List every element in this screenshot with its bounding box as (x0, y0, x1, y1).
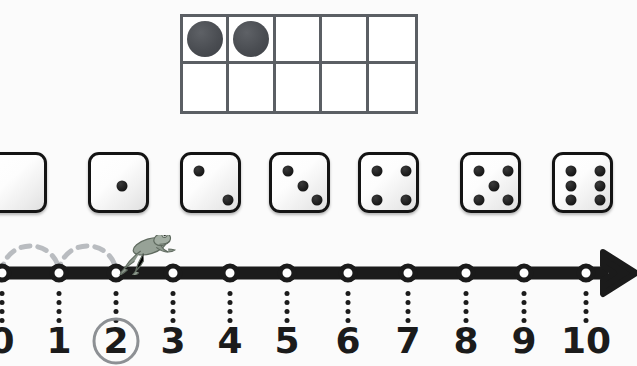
ten-frame[interactable] (180, 14, 418, 114)
die-pip (502, 166, 513, 177)
tick-leader-dots (285, 291, 290, 323)
axis-label-5[interactable]: 5 (274, 323, 299, 359)
die-pip (474, 166, 485, 177)
tick-leader-dots (584, 291, 589, 323)
tick-marker-4[interactable] (221, 264, 240, 283)
number-line[interactable]: 012345678910 (0, 228, 637, 366)
die-pip (566, 180, 577, 191)
tick-marker-7[interactable] (399, 264, 418, 283)
die-pip (297, 180, 308, 191)
counter-dot (187, 21, 223, 57)
die-face-0[interactable] (0, 152, 47, 213)
tick-marker-5[interactable] (278, 264, 297, 283)
die-pip (400, 194, 411, 205)
die-face-3[interactable] (269, 152, 330, 213)
die-face-5[interactable] (460, 152, 521, 213)
axis-label-4[interactable]: 4 (217, 323, 242, 359)
die-pip (594, 180, 605, 191)
die-pip (502, 194, 513, 205)
counter-dot (233, 21, 269, 57)
die-pip (488, 180, 499, 191)
tick-marker-8[interactable] (457, 264, 476, 283)
tick-leader-dots (228, 291, 233, 323)
axis-label-6[interactable]: 6 (335, 323, 360, 359)
tick-marker-6[interactable] (339, 264, 358, 283)
tick-marker-1[interactable] (50, 264, 69, 283)
axis-label-7[interactable]: 7 (395, 323, 420, 359)
axis-label-8[interactable]: 8 (453, 323, 478, 359)
die-pip (372, 194, 383, 205)
ten-frame-cell[interactable] (229, 64, 275, 111)
ten-frame-cell[interactable] (276, 64, 322, 111)
die-pip (594, 166, 605, 177)
die-pip (222, 194, 233, 205)
ten-frame-cell[interactable] (369, 64, 415, 111)
ten-frame-cell[interactable] (322, 64, 368, 111)
die-pip (594, 194, 605, 205)
tick-leader-dots (522, 291, 527, 323)
frog-marker[interactable] (114, 235, 176, 279)
die-pip (194, 166, 205, 177)
tick-leader-dots (406, 291, 411, 323)
die-pip (311, 194, 322, 205)
axis-label-0[interactable]: 0 (0, 323, 15, 359)
die-pip (372, 166, 383, 177)
die-face-6[interactable] (552, 152, 613, 213)
axis-label-2[interactable]: 2 (103, 323, 128, 359)
ten-frame-cell[interactable] (276, 17, 322, 64)
ten-frame-cell[interactable] (183, 17, 229, 64)
ten-frame-cell[interactable] (322, 17, 368, 64)
tick-marker-10[interactable] (577, 264, 596, 283)
axis-label-10[interactable]: 10 (561, 323, 611, 359)
tick-leader-dots (464, 291, 469, 323)
tick-marker-9[interactable] (515, 264, 534, 283)
axis-label-9[interactable]: 9 (511, 323, 536, 359)
ten-frame-cell[interactable] (369, 17, 415, 64)
worksheet-canvas: 012345678910 (0, 0, 637, 366)
frog-icon (114, 235, 176, 275)
tick-leader-dots (346, 291, 351, 323)
die-pip (283, 166, 294, 177)
tick-leader-dots (0, 291, 5, 323)
die-pip (400, 166, 411, 177)
tick-leader-dots (57, 291, 62, 323)
ten-frame-cell[interactable] (183, 64, 229, 111)
dice-row (0, 152, 637, 220)
axis-label-3[interactable]: 3 (160, 323, 185, 359)
die-pip (566, 166, 577, 177)
ten-frame-cell[interactable] (229, 17, 275, 64)
axis-label-1[interactable]: 1 (46, 323, 71, 359)
die-pip (474, 194, 485, 205)
die-face-2[interactable] (180, 152, 241, 213)
die-pip (566, 194, 577, 205)
die-face-1[interactable] (88, 152, 149, 213)
tick-leader-dots (171, 291, 176, 323)
die-pip (116, 180, 127, 191)
die-face-4[interactable] (358, 152, 419, 213)
